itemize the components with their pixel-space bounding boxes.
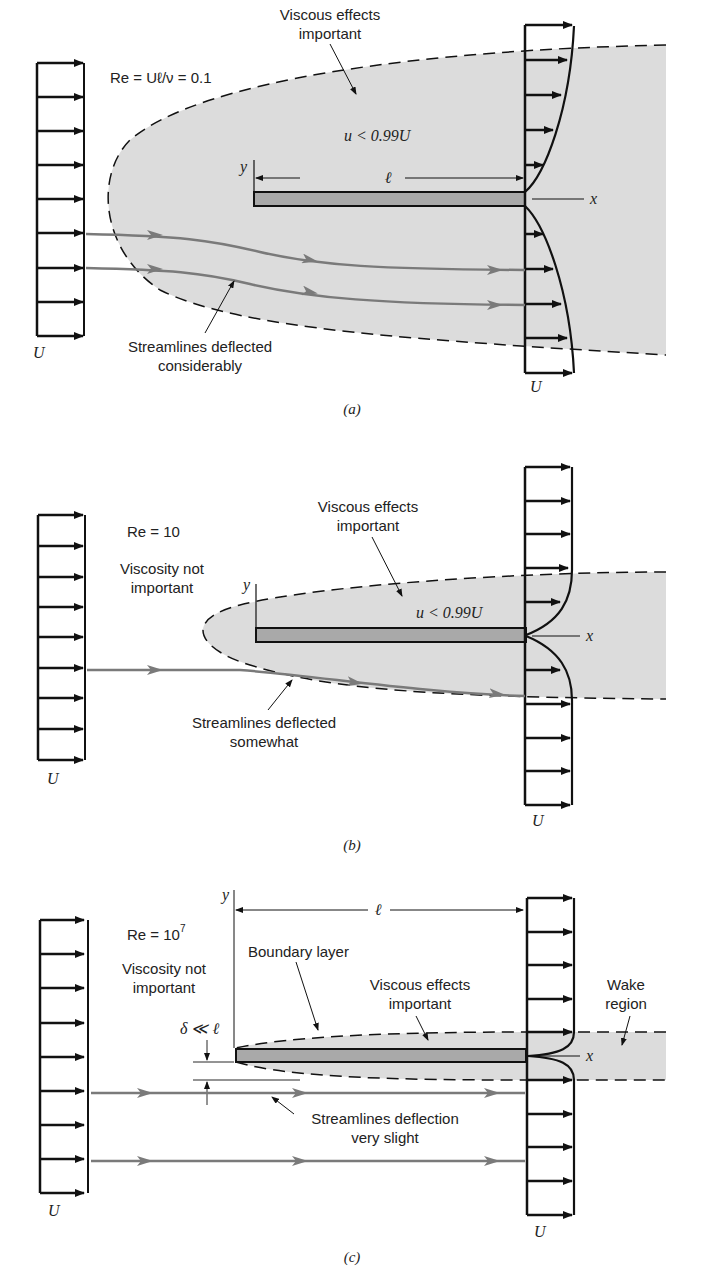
flat-plate-c [236, 1049, 526, 1062]
upstream-U-label-a: U [33, 344, 46, 361]
viscosity-note-c-line1: Viscosity not [122, 960, 207, 977]
y-axis-label-b: y [241, 576, 251, 594]
x-axis-label-a: x [589, 190, 597, 207]
viscosity-note-b-line2: important [131, 579, 194, 596]
reynolds-number-a: Re = Uℓ/ν = 0.1 [110, 69, 212, 86]
y-axis-label-a: y [238, 158, 248, 176]
viscous-label-b-line2: important [337, 517, 400, 534]
flow-past-flat-plate-diagram: U Re = Uℓ/ν = 0.1 Viscous effects import… [0, 0, 701, 1275]
wake-label-c-line2: region [605, 995, 647, 1012]
streamline-pointer-b [268, 680, 292, 710]
caption-c: (c) [344, 1249, 361, 1266]
panel-a: U Re = Uℓ/ν = 0.1 Viscous effects import… [33, 6, 666, 418]
upstream-U-label-b: U [47, 770, 60, 787]
x-axis-label-c: x [585, 1047, 593, 1064]
streamline-label-b-line1: Streamlines deflected [192, 714, 336, 731]
panel-c: U Re = 107 Viscosity not important y ℓ B… [40, 886, 666, 1266]
viscosity-note-b-line1: Viscosity not [120, 560, 205, 577]
streamline-label-a-line1: Streamlines deflected [128, 338, 272, 355]
velocity-condition-a: u < 0.99U [344, 127, 412, 144]
downstream-U-label-a: U [530, 378, 543, 395]
velocity-condition-b: u < 0.99U [416, 604, 484, 621]
caption-a: (a) [343, 401, 361, 418]
upstream-velocity-profile-b [38, 515, 85, 760]
panel-b: U Re = 10 Viscosity not important Viscou… [38, 467, 666, 854]
viscous-label-c-line1: Viscous effects [370, 976, 470, 993]
flat-plate-b [256, 628, 526, 642]
downstream-U-label-b: U [532, 812, 545, 829]
viscous-label-b-line1: Viscous effects [318, 498, 418, 515]
downstream-U-label-c: U [534, 1223, 547, 1240]
y-axis-label-c: y [220, 886, 230, 904]
viscous-label-a-line1: Viscous effects [280, 6, 380, 23]
length-label-a: ℓ [385, 169, 392, 186]
viscous-label-c-line2: important [389, 995, 452, 1012]
streamline-label-b-line2: somewhat [230, 733, 299, 750]
boundary-pointer-c [296, 962, 318, 1030]
reynolds-number-b: Re = 10 [127, 523, 180, 540]
upstream-velocity-profile-a [37, 63, 84, 336]
flat-plate-a [254, 192, 525, 206]
upstream-velocity-profile-c [40, 920, 88, 1193]
viscous-label-a-line2: important [299, 25, 362, 42]
delta-label-c: δ ≪ ℓ [180, 1020, 219, 1037]
streamline-pointer-c [272, 1097, 294, 1114]
viscosity-note-c-line2: important [133, 979, 196, 996]
boundary-layer-label-c: Boundary layer [248, 943, 349, 960]
wake-label-c-line1: Wake [607, 976, 645, 993]
streamline-label-c-line2: very slight [351, 1129, 419, 1146]
length-label-c: ℓ [375, 901, 382, 918]
streamline-label-a-line2: considerably [158, 357, 243, 374]
upstream-U-label-c: U [48, 1202, 61, 1219]
streamline-label-c-line1: Streamlines deflection [311, 1110, 459, 1127]
x-axis-label-b: x [585, 627, 593, 644]
caption-b: (b) [343, 837, 361, 854]
reynolds-number-c: Re = 107 [127, 923, 186, 943]
